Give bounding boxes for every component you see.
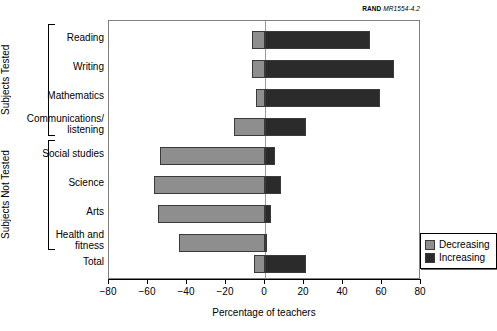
bar-increasing-writing <box>265 60 394 78</box>
bar-increasing-mathematics <box>265 89 380 107</box>
x-tick-40 <box>342 279 343 284</box>
bar-increasing-arts <box>265 205 271 223</box>
bar-decreasing-arts <box>158 205 265 223</box>
x-tick--60 <box>147 279 148 284</box>
bar-decreasing-communications-listening <box>234 118 265 136</box>
bar-increasing-reading <box>265 31 370 49</box>
bar-increasing-science <box>265 176 281 194</box>
bar-row-mathematics <box>109 89 421 107</box>
bar-row-arts <box>109 205 421 223</box>
rand-logo-text: RAND <box>362 5 381 12</box>
rand-document-number: MR1554-4.2 <box>383 5 420 12</box>
x-tick-label-60: 60 <box>361 286 401 297</box>
bar-row-health-and-fitness <box>109 234 421 252</box>
legend-label-increasing: Increasing <box>439 252 485 263</box>
x-tick-label--80: −80 <box>88 286 128 297</box>
category-label-reading: Reading <box>0 32 104 43</box>
bar-decreasing-social-studies <box>160 147 265 165</box>
category-label-total: Total <box>0 256 104 267</box>
legend-label-decreasing: Decreasing <box>439 239 490 250</box>
x-tick-label-40: 40 <box>322 286 362 297</box>
bar-decreasing-total <box>254 255 265 273</box>
bar-increasing-total <box>265 255 306 273</box>
x-tick-label-0: 0 <box>244 286 284 297</box>
bar-decreasing-reading <box>252 31 265 49</box>
x-tick-0 <box>264 279 265 284</box>
category-label-social-studies: Social studies <box>0 148 104 159</box>
plot-area: Decreasing Increasing <box>108 20 420 279</box>
bar-row-reading <box>109 31 421 49</box>
bar-row-communications-listening <box>109 118 421 136</box>
bar-decreasing-mathematics <box>256 89 265 107</box>
x-tick-label--20: −20 <box>205 286 245 297</box>
x-tick-60 <box>381 279 382 284</box>
bar-decreasing-science <box>154 176 265 194</box>
bar-decreasing-writing <box>252 60 265 78</box>
category-label-arts: Arts <box>0 206 104 217</box>
bar-increasing-communications-listening <box>265 118 306 136</box>
bar-row-science <box>109 176 421 194</box>
legend-swatch-decreasing <box>425 240 435 250</box>
x-tick--80 <box>108 279 109 284</box>
bar-decreasing-health-and-fitness <box>179 234 265 252</box>
x-tick-label-80: 80 <box>400 286 440 297</box>
x-tick-20 <box>303 279 304 284</box>
x-axis-title: Percentage of teachers <box>108 307 420 318</box>
category-label-science: Science <box>0 177 104 188</box>
bar-increasing-health-and-fitness <box>265 234 267 252</box>
x-tick-label--40: −40 <box>166 286 206 297</box>
x-tick--40 <box>186 279 187 284</box>
bar-increasing-social-studies <box>265 147 275 165</box>
category-label-communications-listening: Communications/ listening <box>0 113 104 135</box>
x-tick-80 <box>420 279 421 284</box>
bar-row-writing <box>109 60 421 78</box>
x-tick--20 <box>225 279 226 284</box>
category-label-mathematics: Mathematics <box>0 90 104 101</box>
x-tick-label--60: −60 <box>127 286 167 297</box>
legend-item-increasing: Increasing <box>425 251 490 264</box>
x-tick-label-20: 20 <box>283 286 323 297</box>
bar-row-total <box>109 255 421 273</box>
source-credit: RAND MR1554-4.2 <box>362 5 420 12</box>
category-label-health-and-fitness: Health and fitness <box>0 229 104 251</box>
chart-legend: Decreasing Increasing <box>420 233 497 269</box>
legend-item-decreasing: Decreasing <box>425 238 490 251</box>
bar-row-social-studies <box>109 147 421 165</box>
category-label-writing: Writing <box>0 61 104 72</box>
legend-swatch-increasing <box>425 253 435 263</box>
